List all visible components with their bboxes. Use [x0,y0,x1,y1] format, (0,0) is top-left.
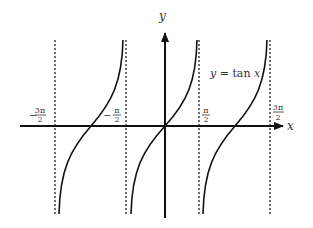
tick-negpi2-den: 2 [114,115,119,124]
tan-graph: y x y = tan x − 3π 2 − π 2 π 2 3π 2 [0,0,313,228]
y-axis-label: y [158,9,166,23]
tick-3pi2-den: 2 [275,113,280,122]
function-label: y = tan x [209,67,261,80]
tick-minus: − [103,110,111,121]
tick-neg3pi2-num: 3π [35,106,45,115]
tick-pi2-den: 2 [203,115,208,124]
tick-3pi2-num: 3π [273,103,283,112]
tick-pi2-num: π [203,106,208,115]
x-axis-label: x [287,119,294,133]
tick-negpi2-num: π [114,106,119,115]
tick-neg3pi2-den: 2 [37,115,42,124]
